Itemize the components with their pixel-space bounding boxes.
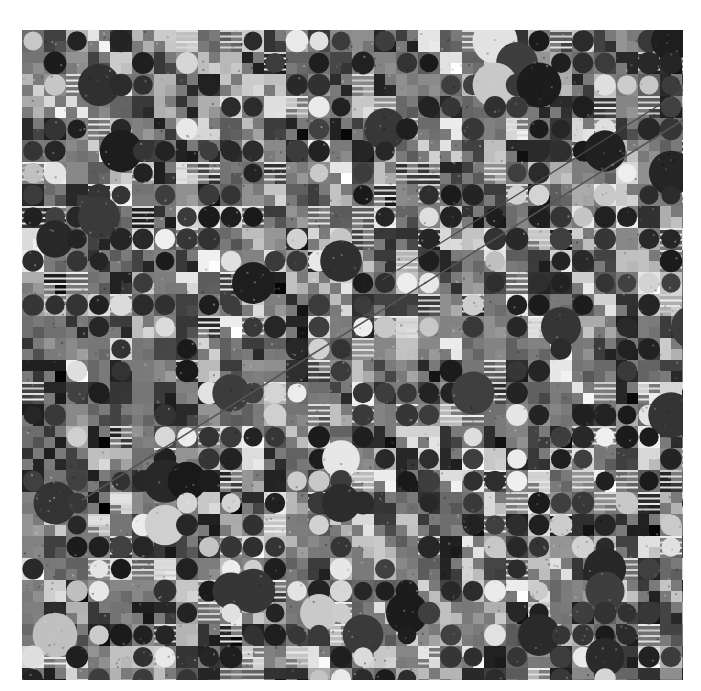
farmland-pattern (22, 30, 683, 680)
satellite-image (22, 30, 683, 680)
